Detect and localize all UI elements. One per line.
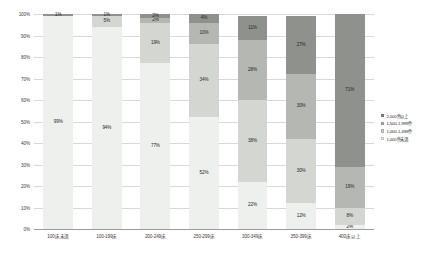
bar-segment-value-label: 19% bbox=[345, 185, 354, 190]
bar-segment[interactable]: 22% bbox=[238, 182, 268, 229]
bar-segment[interactable]: 99% bbox=[43, 16, 73, 229]
bar-segment[interactable]: 94% bbox=[92, 27, 122, 229]
bar-segment-value-label: 94% bbox=[102, 126, 111, 131]
bar-segment[interactable]: 27% bbox=[286, 16, 316, 74]
bar-segment[interactable]: 28% bbox=[238, 40, 268, 100]
bar-segment[interactable]: 10% bbox=[189, 23, 219, 45]
y-axis-tick-label: 10% bbox=[21, 205, 30, 210]
bar-segment-value-label: 10% bbox=[200, 31, 209, 36]
y-axis-tick-label: 90% bbox=[21, 33, 30, 38]
legend-color-swatch-icon bbox=[381, 122, 384, 125]
y-axis-tick-label: 20% bbox=[21, 184, 30, 189]
legend-color-swatch-icon bbox=[381, 129, 384, 132]
bar-segment[interactable]: 5% bbox=[92, 16, 122, 27]
legend-item-label: 2,000件以上 bbox=[386, 113, 408, 119]
x-axis-tick-label: 250-299床 bbox=[193, 233, 214, 239]
bar-segment-value-label: 28% bbox=[248, 68, 257, 73]
y-axis-tick-label: 50% bbox=[21, 119, 30, 124]
stacked-bar[interactable]: 22%38%28%11% bbox=[238, 14, 268, 229]
stacked-bar[interactable]: 99%1% bbox=[43, 14, 73, 229]
plot-area: 0%10%20%30%40%50%60%70%80%90%100%99%1%10… bbox=[34, 14, 374, 229]
x-axis-tick-label: 400床以上 bbox=[339, 233, 361, 239]
stacked-bar[interactable]: 2%8%19%71% bbox=[335, 14, 365, 229]
x-axis-tick-label: 100-199床 bbox=[96, 233, 117, 239]
stacked-bar[interactable]: 52%34%10%4% bbox=[189, 14, 219, 229]
legend-item[interactable]: 1,500-1,999件 bbox=[381, 120, 439, 128]
bar-segment[interactable]: 30% bbox=[286, 74, 316, 139]
y-axis-tick-label: 70% bbox=[21, 76, 30, 81]
bar-segment-value-label: 99% bbox=[54, 120, 63, 125]
legend-item[interactable]: 1,000-1,499件 bbox=[381, 127, 439, 135]
bar-segment-value-label: 34% bbox=[200, 78, 209, 83]
y-axis-tick-label: 40% bbox=[21, 141, 30, 146]
bar-segment[interactable]: 1% bbox=[92, 14, 122, 16]
legend-item-label: 1,000-1,499件 bbox=[386, 128, 412, 134]
bar-segment-value-label: 27% bbox=[297, 43, 306, 48]
x-axis-tick-label: 200-249床 bbox=[145, 233, 166, 239]
bar-segment-value-label: 71% bbox=[345, 88, 354, 93]
bar-segment-value-label: 4% bbox=[201, 16, 207, 21]
y-axis-tick-label: 0% bbox=[24, 227, 30, 232]
bar-segment-value-label: 2% bbox=[152, 18, 158, 23]
bar-segment[interactable]: 11% bbox=[238, 16, 268, 40]
bar-segment-value-label: 11% bbox=[248, 26, 257, 31]
chart-container: 0%10%20%30%40%50%60%70%80%90%100%99%1%10… bbox=[0, 0, 439, 256]
bar-segment[interactable]: 52% bbox=[189, 117, 219, 229]
bar-segment-value-label: 12% bbox=[297, 214, 306, 219]
y-axis-tick-label: 80% bbox=[21, 55, 30, 60]
bar-segment[interactable]: 8% bbox=[335, 208, 365, 225]
bar-segment[interactable]: 19% bbox=[335, 167, 365, 208]
x-axis-tick-label: 100床未満 bbox=[47, 233, 69, 239]
stacked-bar[interactable]: 12%30%30%27% bbox=[286, 14, 316, 229]
bar-segment-value-label: 2% bbox=[346, 225, 352, 230]
bar-segment-value-label: 5% bbox=[104, 19, 110, 24]
stacked-bar[interactable]: 94%5%1% bbox=[92, 14, 122, 229]
bar-segment[interactable]: 19% bbox=[140, 23, 170, 64]
bar-segment[interactable]: 38% bbox=[238, 100, 268, 182]
x-axis-tick-label: 300-349床 bbox=[242, 233, 263, 239]
y-axis-tick-label: 60% bbox=[21, 98, 30, 103]
bar-segment[interactable]: 34% bbox=[189, 44, 219, 117]
legend-item[interactable]: 1,000件未満 bbox=[381, 135, 439, 143]
bar-segment[interactable]: 4% bbox=[189, 14, 219, 23]
bar-segment-value-label: 52% bbox=[200, 171, 209, 176]
x-axis-tick-label: 350-399床 bbox=[291, 233, 312, 239]
y-axis-tick-label: 100% bbox=[19, 12, 30, 17]
bar-segment-value-label: 30% bbox=[297, 104, 306, 109]
bar-segment-value-label: 19% bbox=[151, 41, 160, 46]
bar-segment[interactable]: 77% bbox=[140, 63, 170, 229]
stacked-bar[interactable]: 77%19%2%2% bbox=[140, 14, 170, 229]
bar-segment[interactable]: 71% bbox=[335, 14, 365, 167]
bar-segment[interactable]: 12% bbox=[286, 203, 316, 229]
bar-segment-value-label: 22% bbox=[248, 203, 257, 208]
bar-segment-value-label: 1% bbox=[55, 13, 61, 18]
legend-item-label: 1,000件未満 bbox=[386, 136, 408, 142]
bar-segment[interactable]: 30% bbox=[286, 139, 316, 204]
bar-segment[interactable]: 2% bbox=[140, 14, 170, 18]
bar-segment-value-label: 2% bbox=[152, 14, 158, 19]
bar-segment[interactable]: 1% bbox=[43, 14, 73, 16]
y-axis-tick-label: 30% bbox=[21, 162, 30, 167]
legend-color-swatch-icon bbox=[381, 114, 384, 117]
bar-segment-value-label: 30% bbox=[297, 169, 306, 174]
legend-item[interactable]: 2,000件以上 bbox=[381, 112, 439, 120]
bar-segment[interactable]: 2% bbox=[140, 18, 170, 22]
bar-segment-value-label: 8% bbox=[346, 214, 352, 219]
bar-segment-value-label: 1% bbox=[104, 13, 110, 18]
chart-legend: 2,000件以上1,500-1,999件1,000-1,499件1,000件未満 bbox=[381, 112, 439, 142]
bar-segment-value-label: 77% bbox=[151, 144, 160, 149]
bar-segment-value-label: 38% bbox=[248, 139, 257, 144]
x-axis-line bbox=[34, 229, 374, 230]
legend-color-swatch-icon bbox=[381, 137, 384, 140]
bar-segment[interactable]: 2% bbox=[335, 225, 365, 229]
legend-item-label: 1,500-1,999件 bbox=[386, 120, 412, 126]
